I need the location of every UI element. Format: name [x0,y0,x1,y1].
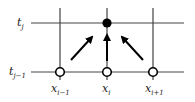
label-tj-1: tj−1 [9,65,26,80]
label-xi-1: xi−1 [51,82,70,97]
stencil-diagram: tj tj−1 xi−1 xi xi+1 [0,0,195,102]
label-xi: xi [102,82,110,97]
arrow-right-icon [122,37,143,60]
node-open-xi+1-tj-1 [149,68,158,77]
arrows [71,35,143,61]
node-open-xi-1-tj-1 [56,68,65,77]
node-open-xi-tj-1 [103,68,112,77]
arrow-left-icon [71,37,92,60]
label-tj: tj [17,16,24,31]
node-filled-xi-tj [102,18,111,27]
label-xi+1: xi+1 [145,82,164,97]
